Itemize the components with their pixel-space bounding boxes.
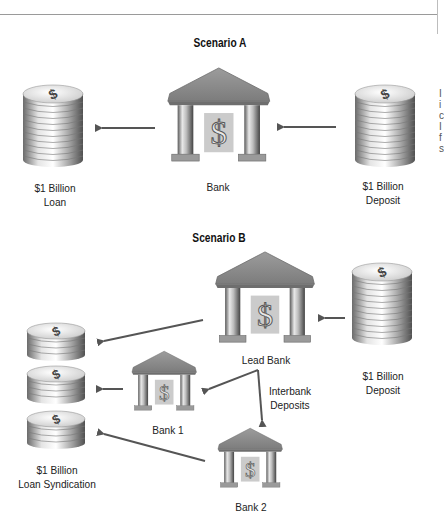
- loan-type: Loan: [20, 195, 90, 209]
- coin-stack-small-icon: [27, 323, 85, 361]
- coin-stack-icon: [23, 85, 83, 167]
- syndication-label: $1 Billion Loan Syndication: [13, 463, 101, 491]
- interbank-line2: Deposits: [259, 398, 321, 412]
- interbank-line1: Interbank: [259, 384, 321, 398]
- bank1-label: Bank 1: [133, 423, 203, 437]
- bank-icon: [168, 68, 270, 161]
- interbank-label: Interbank Deposits: [259, 384, 321, 412]
- deposit-type: Deposit: [348, 193, 418, 207]
- bank2-icon: [218, 428, 282, 487]
- deposit-amount: $1 Billion: [348, 179, 418, 193]
- bank1-icon: [132, 351, 196, 410]
- arrow-icon: [104, 320, 203, 341]
- lead-bank-label: Lead Bank: [231, 353, 301, 367]
- b-deposit-label: $1 Billion Deposit: [348, 369, 418, 397]
- syndication-amount: $1 Billion: [13, 463, 101, 477]
- scenario-b-title: Scenario B: [177, 231, 262, 245]
- lead-bank-name: Lead Bank: [231, 353, 301, 367]
- arrow-icon: [104, 434, 205, 461]
- bank-name: Bank: [183, 180, 253, 194]
- deposit-amount: $1 Billion: [348, 369, 418, 383]
- coin-stack-icon: [352, 263, 412, 345]
- loan-label: $1 Billion Loan: [20, 181, 90, 209]
- scenario-a-title: Scenario A: [178, 36, 263, 50]
- coin-stack-small-icon: [27, 411, 85, 449]
- deposit-label: $1 Billion Deposit: [348, 179, 418, 207]
- syndication-type: Loan Syndication: [13, 477, 101, 491]
- coin-stack-small-icon: [27, 366, 85, 404]
- bank1-name: Bank 1: [133, 423, 203, 437]
- deposit-type: Deposit: [348, 383, 418, 397]
- loan-amount: $1 Billion: [20, 181, 90, 195]
- bank2-name: Bank 2: [216, 500, 286, 514]
- bank-label: Bank: [183, 180, 253, 194]
- bank2-label: Bank 2: [216, 500, 286, 514]
- coin-stack-icon: [355, 85, 415, 167]
- arrow-icon: [209, 370, 258, 389]
- lead-bank-icon: [216, 252, 315, 342]
